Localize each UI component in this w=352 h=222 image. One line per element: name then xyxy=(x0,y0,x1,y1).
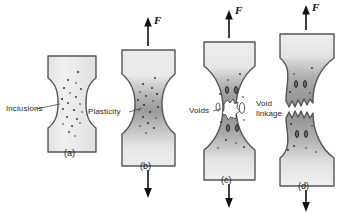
force-arrow-d-up xyxy=(302,5,310,30)
ductile-fracture-diagram: Inclusions Plasticity Voids Void linkage… xyxy=(0,0,352,222)
force-label-d: F xyxy=(312,1,319,13)
specimen-body-d-upper xyxy=(280,34,334,107)
panel-label-a: (a) xyxy=(64,148,75,158)
panel-label-c: (c) xyxy=(221,175,232,185)
annotation-void-linkage-line1: Void xyxy=(256,99,272,108)
force-label-b: F xyxy=(154,14,161,26)
force-arrow-c-up xyxy=(225,10,233,38)
annotation-plasticity: Plasticity xyxy=(88,107,121,116)
annotation-voids: Voids xyxy=(189,106,209,115)
force-arrow-c-down xyxy=(225,184,233,208)
force-arrow-b-up xyxy=(144,17,152,46)
force-label-c: F xyxy=(235,4,242,16)
annotation-void-linkage: Void linkage xyxy=(256,99,290,118)
annotation-void-linkage-line2: linkage xyxy=(256,109,282,118)
void-right-c xyxy=(239,103,244,114)
panel-label-b: (b) xyxy=(140,161,151,171)
specimen-body-a xyxy=(48,56,96,152)
panel-a-specimen xyxy=(36,56,96,152)
force-arrow-d-down xyxy=(302,190,310,212)
specimen-body-d-lower xyxy=(280,111,334,186)
panel-label-d: (d) xyxy=(298,181,309,191)
force-arrow-b-down xyxy=(144,170,152,198)
specimen-body-b xyxy=(122,50,175,166)
annotation-inclusions: Inclusions xyxy=(6,104,43,113)
